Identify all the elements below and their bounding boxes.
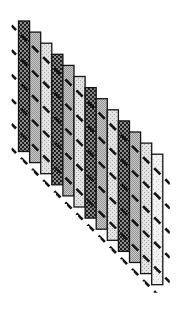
- figure-canvas: [0, 0, 180, 310]
- skewed-bars-diagram: [0, 0, 180, 310]
